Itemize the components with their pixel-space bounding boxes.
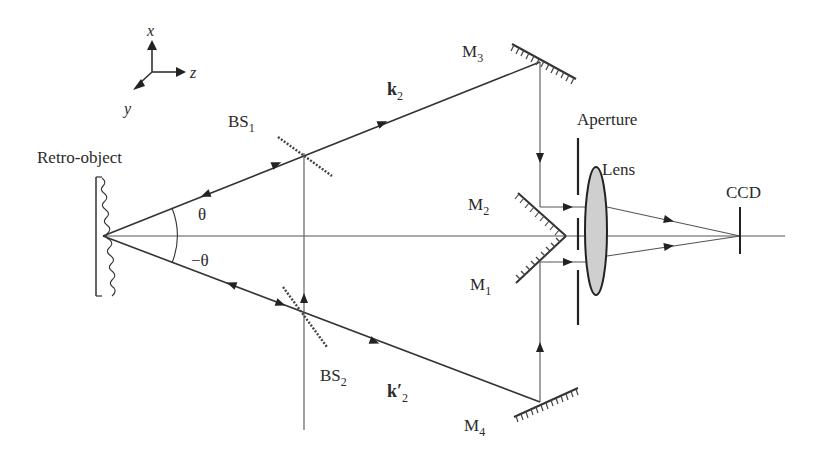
ccd-label: CCD bbox=[726, 183, 761, 202]
axis-z-label: z bbox=[189, 64, 197, 81]
axis-y-label: y bbox=[122, 100, 132, 118]
bs1-label: BS1 bbox=[228, 112, 255, 135]
retro-object-label: Retro-object bbox=[37, 148, 122, 167]
lens bbox=[585, 167, 607, 295]
optical-setup-diagram: x z y Retro-object θ −θ BS1 BS2 k2 k′2 bbox=[0, 0, 819, 456]
neg-theta-label: −θ bbox=[191, 251, 209, 270]
beam-splitter-1 bbox=[278, 137, 332, 176]
k2-label: k2 bbox=[387, 79, 403, 103]
m3-label: M3 bbox=[462, 42, 483, 65]
beam-lens-to-ccd-lower bbox=[607, 236, 740, 256]
k2-prime-label: k′2 bbox=[387, 381, 408, 405]
bs2-label: BS2 bbox=[320, 366, 347, 389]
aperture-label: Aperture bbox=[577, 110, 637, 129]
beam-lens-to-ccd-upper bbox=[607, 207, 740, 236]
lens-label: Lens bbox=[602, 160, 635, 179]
m4-label: M4 bbox=[464, 416, 485, 439]
mirror-m1 bbox=[516, 236, 566, 283]
mirror-m3 bbox=[511, 44, 576, 84]
axis-x-label: x bbox=[146, 22, 154, 39]
theta-label: θ bbox=[198, 205, 206, 224]
m2-label: M2 bbox=[468, 195, 489, 218]
coordinate-axes-icon: x z y bbox=[122, 22, 197, 118]
mirror-m4 bbox=[514, 388, 578, 422]
m1-label: M1 bbox=[470, 275, 491, 298]
